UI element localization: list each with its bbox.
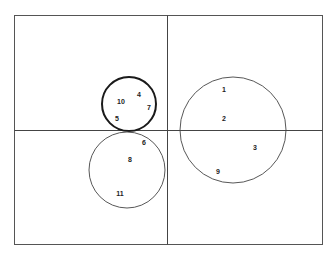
point-label-7: 7	[147, 104, 151, 111]
point-label-4: 4	[137, 91, 141, 98]
point-label-11: 11	[116, 190, 124, 197]
point-label-6: 6	[142, 139, 146, 146]
cluster-diagram: 1234567891011	[0, 0, 336, 256]
point-label-5: 5	[115, 115, 119, 122]
point-label-1: 1	[222, 86, 226, 93]
point-label-3: 3	[253, 144, 257, 151]
point-label-9: 9	[216, 168, 220, 175]
point-label-10: 10	[117, 98, 125, 105]
point-label-8: 8	[128, 156, 132, 163]
point-label-2: 2	[222, 115, 226, 122]
